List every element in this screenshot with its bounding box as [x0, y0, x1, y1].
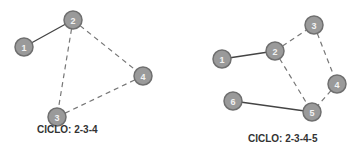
graph-left-caption: CICLO: 2-3-4: [37, 124, 98, 135]
node-4: 4: [328, 75, 346, 93]
graph-left: 1234: [15, 11, 152, 126]
node-label: 4: [334, 80, 339, 90]
node-label: 1: [219, 55, 224, 65]
edge-2-5: [275, 51, 312, 112]
edge-2-3: [57, 20, 73, 117]
node-label: 5: [309, 108, 314, 118]
node-label: 1: [21, 43, 26, 53]
node-label: 4: [140, 72, 145, 82]
node-5: 5: [303, 103, 321, 121]
node-2: 2: [266, 42, 284, 60]
node-2: 2: [64, 11, 82, 29]
node-label: 2: [70, 16, 75, 26]
node-label: 6: [230, 97, 235, 107]
node-6: 6: [224, 92, 242, 110]
node-label: 3: [311, 21, 316, 31]
graph-right-caption: CICLO: 2-3-4-5: [248, 133, 317, 144]
node-1: 1: [15, 38, 33, 56]
node-3: 3: [305, 16, 323, 34]
node-label: 3: [54, 113, 59, 123]
node-label: 2: [272, 47, 277, 57]
node-4: 4: [134, 67, 152, 85]
graph-right: 123456: [213, 16, 346, 121]
edge-3-4: [57, 76, 143, 117]
edge-2-4: [73, 20, 143, 76]
node-1: 1: [213, 50, 231, 68]
edge-6-5: [233, 101, 312, 112]
